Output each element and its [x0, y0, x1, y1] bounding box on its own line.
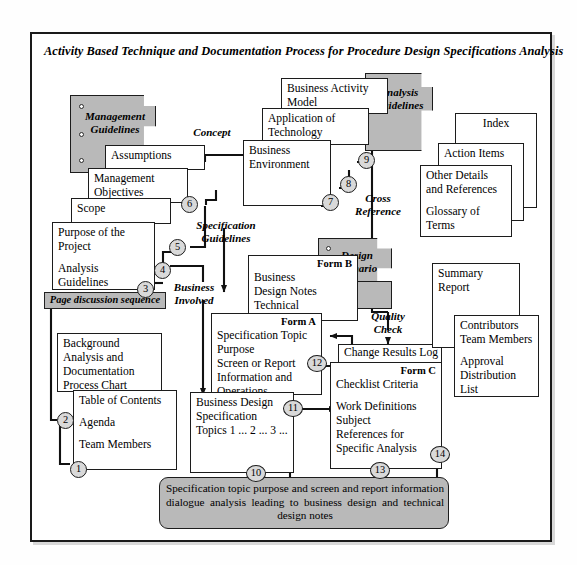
fb-line-3: Technical	[254, 299, 299, 312]
step-14-label: 14	[435, 448, 445, 459]
scope-line-1: Scope	[77, 202, 105, 215]
pop-line-1: Purpose of the	[58, 226, 125, 239]
quality-check-line-2: Check	[374, 323, 403, 335]
cb-line-5: Distribution	[460, 369, 516, 382]
step-5: 5	[169, 239, 186, 256]
annotation-business-involved: Business Involved	[157, 281, 231, 307]
card-contributors: Contributors Team Members Approval Distr…	[454, 315, 539, 397]
od-line-5: Terms	[426, 219, 455, 232]
be-line-1: Business	[249, 144, 290, 157]
step-5-label: 5	[175, 241, 180, 252]
step-4-label: 4	[160, 264, 165, 275]
od-line-4: Glossary of	[426, 205, 480, 218]
step-6: 6	[181, 196, 198, 213]
step-11-label: 11	[288, 402, 298, 413]
step-13: 13	[370, 462, 390, 479]
pop-line-2: Project	[58, 240, 91, 253]
od-line-2: and References	[426, 183, 497, 196]
annotation-quality-check: Quality Check	[355, 310, 421, 336]
card-other-details: Other Details and References Glossary of…	[420, 165, 512, 237]
fc-line-4: Subject	[336, 414, 371, 427]
toc-line-2: Contents	[120, 394, 161, 407]
fb-line-1: Business	[254, 271, 295, 284]
card-business-environment: Business Environment	[243, 140, 331, 206]
pop-line-4: Analysis	[58, 262, 99, 275]
concept-label: Concept	[193, 126, 230, 138]
card-form-a: Form A Specification Topic Purpose Scree…	[211, 313, 322, 395]
bds-line-2: Specification	[196, 410, 257, 423]
step-14: 14	[430, 446, 450, 463]
fc-line-1: Checklist Criteria	[336, 378, 418, 391]
summary-text: Specification topic purpose and screen a…	[166, 482, 444, 523]
bds-line-4: 1 ...	[230, 424, 247, 437]
bg-line-1: Background	[63, 337, 120, 350]
bds-line-6: 3 ...	[270, 424, 287, 437]
step-11: 11	[283, 400, 303, 417]
fc-line-6: Specific Analysis	[336, 442, 417, 455]
assumptions-line-1: Assumptions	[111, 149, 172, 162]
aot-line-2: Technology	[268, 126, 323, 139]
step-13-label: 13	[375, 464, 385, 475]
card-purpose-of-project: Purpose of the Project Analysis Guidelin…	[52, 222, 155, 290]
step-4: 4	[154, 262, 171, 279]
mgmt-obj-line-1: Management	[94, 172, 155, 185]
form-c-title: Form C	[336, 364, 436, 378]
annotation-specification-guidelines: Specification Guidelines	[178, 219, 274, 245]
crl-line-1: Change Results Log	[344, 346, 438, 359]
fa-line-1: Specification Topic	[217, 329, 307, 342]
bds-line-5: 2 ...	[250, 424, 267, 437]
diagram-canvas: Activity Based Technique and Documentati…	[0, 0, 577, 565]
step-1-label: 1	[76, 463, 81, 474]
management-guidelines-line-2: Guidelines	[91, 123, 140, 135]
cb-line-2: Team Members	[460, 333, 532, 346]
bg-line-3: Documentation	[63, 365, 134, 378]
be-line-2: Environment	[249, 158, 310, 171]
annotation-cross-reference: Cross Reference	[343, 192, 413, 218]
step-2-label: 2	[63, 414, 68, 425]
business-involved-line-2: Involved	[174, 294, 213, 306]
bds-line-3: Topics	[196, 424, 227, 437]
sr-line-2: Report	[438, 281, 470, 294]
card-table-of-contents: Table of Contents Agenda Team Members	[73, 390, 177, 470]
index-line-1: Index	[461, 117, 531, 131]
step-9-label: 9	[364, 154, 369, 165]
card-form-c: Form C Checklist Criteria Work Definitio…	[330, 362, 442, 469]
sr-line-1: Summary	[438, 267, 483, 280]
step-2: 2	[57, 412, 74, 429]
toc-line-1: Table of	[79, 394, 117, 407]
od-line-1: Other Details	[426, 169, 488, 182]
fa-line-3: Screen or Report	[217, 357, 296, 370]
cb-line-4: Approval	[460, 355, 504, 368]
card-assumptions: Assumptions	[105, 145, 205, 170]
step-7-label: 7	[328, 196, 333, 207]
pop-line-5: Guidelines	[58, 276, 108, 289]
step-1: 1	[70, 461, 87, 478]
form-a-title: Form A	[217, 315, 316, 329]
fa-line-2: Purpose	[217, 343, 254, 356]
spec-guidelines-line-1: Specification	[196, 219, 255, 231]
bam-line-1: Business Activity	[287, 82, 368, 95]
annotation-concept: Concept	[182, 126, 242, 139]
business-involved-line-1: Business	[174, 281, 214, 293]
step-8: 8	[340, 176, 357, 193]
page-title: Activity Based Technique and Documentati…	[44, 44, 544, 59]
punch-hole	[79, 104, 84, 109]
step-8-label: 8	[346, 178, 351, 189]
card-form-b: Form B Business Design Notes Technical D…	[248, 255, 358, 321]
toc-line-6: Team Members	[79, 438, 151, 451]
aot-line-1: Application of	[268, 112, 335, 125]
step-3: 3	[137, 281, 154, 298]
step-12: 12	[307, 355, 327, 372]
form-b-title: Form B	[254, 257, 352, 271]
ai-line-1: Action Items	[444, 147, 504, 160]
fc-line-3: Work Definitions	[336, 400, 417, 413]
fa-line-4: Information and	[217, 371, 292, 384]
cross-reference-line-2: Reference	[355, 205, 401, 217]
card-background-analysis: Background Analysis and Documentation Pr…	[57, 333, 162, 392]
cross-reference-line-1: Cross	[365, 192, 391, 204]
card-business-design-spec: Business Design Specification Topics 1 .…	[190, 392, 294, 473]
cb-line-6: List	[460, 383, 478, 396]
fc-line-5: References for	[336, 428, 404, 441]
step-10-label: 10	[251, 467, 261, 478]
spec-guidelines-line-2: Guidelines	[202, 232, 251, 244]
